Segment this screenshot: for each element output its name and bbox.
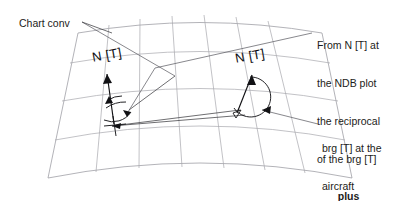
chart-conv-leader xyxy=(82,22,175,110)
ndb-note-leader-line xyxy=(128,33,312,112)
ndb-arc-arrowhead-upper xyxy=(105,96,113,104)
parallel-4 xyxy=(55,126,345,140)
meridian-4 xyxy=(172,16,182,167)
meridian-1 xyxy=(48,33,78,178)
navigation-diagram: Chart conv N [T] N [T] From N [T] at the… xyxy=(0,0,398,201)
ndb-angle-arcs xyxy=(104,96,131,122)
parallel-5 xyxy=(48,163,352,178)
graticule-parallels xyxy=(48,23,352,179)
parallel-1 xyxy=(78,23,322,34)
brg-aircraft-line-1: brg [T] at the xyxy=(322,142,382,155)
meridian-5 xyxy=(204,15,224,168)
ndb-note-line-2: the NDB plot xyxy=(317,77,380,90)
brg-aircraft-line-2: aircraft xyxy=(322,180,382,193)
chart-conv-label: Chart conv xyxy=(19,17,70,30)
meridian-6 xyxy=(236,17,265,170)
meridian-7 xyxy=(268,21,305,173)
convergence-wedge-right xyxy=(129,76,175,110)
graticule-meridians xyxy=(48,15,352,178)
ndb-note-line-1: From N [T] at xyxy=(317,39,380,52)
brg-aircraft-leader xyxy=(262,106,318,124)
ndb-note-leader xyxy=(128,33,312,112)
bearing-line-arrowhead-ndb xyxy=(112,123,121,129)
north-arrow-aircraft-head xyxy=(247,75,256,85)
brg-aircraft-label: brg [T] at the aircraft xyxy=(322,117,382,201)
